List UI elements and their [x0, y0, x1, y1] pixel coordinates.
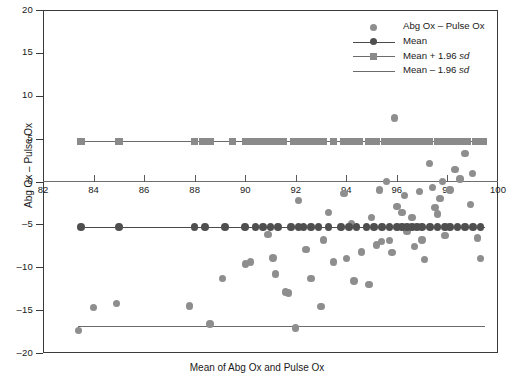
data-point [401, 192, 408, 199]
upper-limit-marker [191, 138, 198, 145]
y-tick [36, 96, 43, 97]
mean-marker [300, 223, 308, 231]
upper-limit-marker [472, 138, 479, 145]
data-point [264, 231, 271, 238]
mean-marker [426, 223, 434, 231]
upper-limit-marker [242, 138, 249, 145]
x-tick [94, 175, 95, 182]
x-tick [346, 175, 347, 182]
mean-marker [77, 223, 85, 231]
data-point [302, 246, 309, 253]
mean-marker [477, 223, 485, 231]
x-axis-line [43, 181, 498, 182]
mean-marker [307, 223, 315, 231]
mean-marker [418, 223, 426, 231]
y-tick [36, 53, 43, 54]
upper-limit-marker [206, 138, 213, 145]
upper-limit-marker [257, 138, 264, 145]
mean-marker [241, 223, 249, 231]
x-tick [296, 175, 297, 182]
mean-marker [386, 223, 394, 231]
legend-key [353, 35, 395, 50]
y-tick [36, 139, 43, 140]
upper-limit-marker [348, 138, 355, 145]
upper-limit-marker [229, 138, 236, 145]
y-tick [36, 10, 43, 11]
upper-limit-marker [441, 138, 448, 145]
mean-marker [337, 223, 345, 231]
upper-limit-marker [396, 138, 403, 145]
data-point [388, 249, 395, 256]
upper-limit-marker [479, 138, 486, 145]
mean-marker [221, 223, 229, 231]
mean-marker [353, 223, 361, 231]
upper-limit-marker [312, 138, 319, 145]
y-axis-label: Abg Ox – Pulse Ox [23, 76, 34, 256]
mean-marker [252, 223, 260, 231]
upper-limit-marker [264, 138, 271, 145]
upper-limit-marker [199, 138, 206, 145]
bland-altman-chart: 20151050–5–10–15–20 82848688909294969810… [0, 0, 514, 381]
x-tick [144, 175, 145, 182]
x-tick-label: 84 [80, 184, 108, 195]
x-axis-label: Mean of Abg Ox and Pulse Ox [0, 362, 514, 373]
upper-limit-marker [388, 138, 395, 145]
legend-label: Mean [403, 35, 427, 46]
data-point [376, 186, 383, 193]
x-tick [447, 175, 448, 182]
legend-key [353, 49, 395, 64]
upper-limit-marker [355, 138, 362, 145]
legend-label-italic: sd [459, 64, 469, 75]
legend-label: Mean + 1.96 sd [403, 50, 469, 61]
y-tick-label: 15 [22, 46, 33, 57]
x-tick-label: 86 [130, 184, 158, 195]
x-tick [397, 175, 398, 182]
mean-marker [370, 223, 378, 231]
data-point [408, 214, 415, 221]
data-point [441, 232, 448, 239]
mean-marker [287, 223, 295, 231]
data-point [456, 175, 463, 182]
upper-limit-marker [272, 138, 279, 145]
legend-circle-marker [370, 38, 377, 45]
data-point [272, 270, 279, 277]
mean-marker [469, 223, 477, 231]
upper-limit-marker [434, 138, 441, 145]
y-tick [36, 267, 43, 268]
mean-marker [378, 223, 386, 231]
mean-marker [267, 223, 275, 231]
mean-marker [315, 223, 323, 231]
data-point [446, 186, 453, 193]
mean-marker [446, 223, 454, 231]
legend-key [353, 64, 395, 79]
legend-line-swatch [353, 71, 395, 72]
data-point [398, 209, 405, 216]
data-point [358, 248, 365, 255]
mean-marker [115, 223, 123, 231]
mean-marker [201, 223, 209, 231]
mean-marker [454, 223, 462, 231]
upper-limit-marker [418, 138, 425, 145]
upper-limit-marker [365, 138, 372, 145]
upper-limit-marker [305, 138, 312, 145]
mean-marker [274, 223, 282, 231]
y-tick-label: –15 [17, 304, 33, 315]
reference-line-mean_minus_1.96sd [78, 326, 485, 327]
upper-limit-marker [464, 138, 471, 145]
data-point [247, 258, 254, 265]
upper-limit-marker [77, 138, 84, 145]
y-tick [36, 353, 43, 354]
upper-limit-marker [403, 138, 410, 145]
upper-limit-marker [279, 138, 286, 145]
y-tick [36, 182, 43, 183]
upper-limit-marker [249, 138, 256, 145]
mean-marker [461, 223, 469, 231]
upper-limit-marker [340, 138, 347, 145]
y-tick-label: –20 [17, 347, 33, 358]
upper-limit-marker [320, 138, 327, 145]
data-point [295, 197, 302, 204]
x-tick [245, 175, 246, 182]
upper-limit-marker [330, 138, 337, 145]
mean-marker [345, 223, 353, 231]
data-point [206, 320, 213, 327]
